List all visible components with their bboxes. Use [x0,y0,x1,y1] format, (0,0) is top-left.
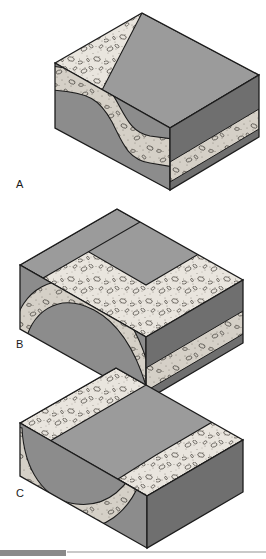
block-diagram-c [10,355,260,559]
footer-divider-bar [0,550,266,556]
footer-bar-right-segment [67,551,266,553]
fold-types-figure: A B C [0,0,266,559]
footer-bar-left-segment [0,550,66,556]
block-diagrams-svg [0,0,266,559]
block-diagram-b [10,181,260,410]
block-label-b: B [16,338,24,350]
block-label-a: A [16,178,24,190]
block-label-c: C [16,487,24,499]
block-diagram-a [40,0,266,210]
